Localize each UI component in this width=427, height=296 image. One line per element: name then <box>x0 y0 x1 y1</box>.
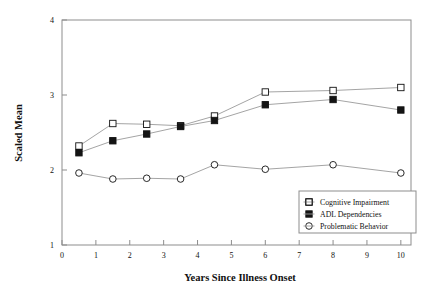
data-point <box>211 161 218 168</box>
data-point <box>177 176 184 183</box>
y-axis-ticks <box>62 20 67 245</box>
x-axis-title: Years Since Illness Onset <box>184 272 296 283</box>
y-axis-tick-labels: 1234 <box>50 16 54 250</box>
legend-label: Cognitive Impairment <box>320 198 390 207</box>
x-tick-label: 4 <box>196 251 200 260</box>
y-tick-label: 2 <box>50 166 54 175</box>
data-point <box>398 107 404 113</box>
y-tick-label: 1 <box>50 241 54 250</box>
data-point <box>177 123 183 129</box>
x-tick-label: 9 <box>365 251 369 260</box>
data-point <box>211 117 217 123</box>
series-line <box>79 100 401 153</box>
data-series-layer <box>76 84 404 182</box>
data-point <box>110 138 116 144</box>
series-line <box>79 88 401 147</box>
x-tick-label: 10 <box>397 251 405 260</box>
data-point <box>398 170 405 177</box>
y-tick-label: 4 <box>50 16 54 25</box>
data-point <box>76 143 82 149</box>
legend-label: Problematic Behavior <box>320 222 389 231</box>
data-point <box>76 170 83 177</box>
y-tick-label: 3 <box>50 91 54 100</box>
data-point <box>143 175 150 182</box>
line-chart: 012345678910 1234 Cognitive ImpairmentAD… <box>0 0 427 296</box>
data-point <box>76 150 82 156</box>
y-axis-title: Scaled Mean <box>13 104 24 162</box>
chart-figure: 012345678910 1234 Cognitive ImpairmentAD… <box>0 0 427 296</box>
series-problematic-behavior <box>76 161 404 182</box>
x-tick-label: 6 <box>263 251 267 260</box>
x-tick-label: 1 <box>94 251 98 260</box>
legend-label: ADL Dependencies <box>320 210 381 219</box>
series-adl-dependencies <box>76 96 404 156</box>
x-tick-label: 2 <box>128 251 132 260</box>
data-point <box>330 87 336 93</box>
x-tick-label: 5 <box>229 251 233 260</box>
data-point <box>144 131 150 137</box>
chart-legend: Cognitive ImpairmentADL DependenciesProb… <box>299 191 416 233</box>
x-tick-label: 0 <box>60 251 64 260</box>
data-point <box>110 120 116 126</box>
data-point <box>110 176 117 183</box>
x-axis-ticks <box>62 240 401 245</box>
data-point <box>262 102 268 108</box>
data-point <box>262 166 269 173</box>
x-tick-label: 7 <box>297 251 301 260</box>
data-point <box>330 96 336 102</box>
data-point <box>398 84 404 90</box>
data-point <box>330 161 337 168</box>
x-tick-label: 8 <box>331 251 335 260</box>
x-tick-label: 3 <box>162 251 166 260</box>
series-line <box>79 165 401 179</box>
series-cognitive-impairment <box>76 84 404 149</box>
data-point <box>262 89 268 95</box>
data-point <box>144 121 150 127</box>
x-axis-tick-labels: 012345678910 <box>60 251 405 260</box>
